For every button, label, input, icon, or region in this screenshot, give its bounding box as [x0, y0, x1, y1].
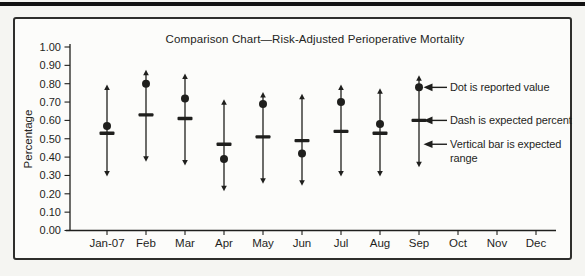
expected-dash-marker	[178, 117, 193, 120]
y-tick-label: 0.20	[40, 188, 61, 200]
month-label: Apr	[215, 237, 233, 249]
range-arrow-bottom	[143, 156, 149, 162]
expected-dash-marker	[334, 130, 349, 133]
expected-dash-marker	[373, 132, 388, 135]
month-label: Jun	[293, 237, 312, 249]
y-tick-label: 0.90	[40, 59, 61, 71]
range-arrow-bottom	[338, 171, 344, 177]
reported-dot-marker	[415, 83, 423, 91]
annotation-arrow-head	[424, 84, 433, 92]
month-label: Jul	[334, 237, 349, 249]
annotation-arrow-head	[424, 140, 433, 148]
range-arrow-bottom	[221, 186, 227, 192]
range-arrow-bottom	[260, 178, 266, 184]
expected-dash-marker	[217, 143, 232, 146]
month-label: Jan-07	[89, 237, 124, 249]
range-arrow-top	[143, 70, 149, 76]
month-label: Feb	[136, 237, 156, 249]
expected-dash-marker	[295, 139, 310, 142]
range-arrow-top	[299, 94, 305, 100]
reported-dot-marker	[181, 94, 189, 102]
expected-dash-marker	[256, 135, 271, 138]
month-label: Dec	[526, 237, 547, 249]
y-tick-label: 0.50	[40, 133, 61, 145]
reported-dot-marker	[337, 98, 345, 106]
annotation-text: Dot is reported value	[450, 81, 549, 93]
reported-dot-marker	[298, 149, 306, 157]
y-tick-label: 0.00	[40, 224, 61, 236]
range-arrow-top	[221, 99, 227, 105]
reported-dot-marker	[103, 122, 111, 130]
range-arrow-top	[182, 74, 188, 80]
month-label: Nov	[487, 237, 508, 249]
range-arrow-bottom	[416, 162, 422, 168]
expected-dash-marker	[100, 132, 115, 135]
month-label: Sep	[409, 237, 429, 249]
range-arrow-top	[104, 85, 110, 91]
range-arrow-bottom	[182, 160, 188, 166]
annotation-text: range	[450, 152, 478, 164]
annotation-text: Vertical bar is expected	[450, 138, 561, 150]
reported-dot-marker	[259, 100, 267, 108]
y-tick-label: 0.40	[40, 151, 61, 163]
reported-dot-marker	[376, 120, 384, 128]
range-arrow-bottom	[299, 180, 305, 186]
y-tick-label: 1.00	[40, 41, 61, 53]
range-arrow-top	[260, 92, 266, 98]
range-arrow-bottom	[104, 171, 110, 177]
range-arrow-top	[416, 75, 422, 81]
range-arrow-top	[338, 85, 344, 91]
month-label: Mar	[175, 237, 195, 249]
reported-dot-marker	[142, 80, 150, 88]
month-label: Aug	[370, 237, 390, 249]
month-label: May	[252, 237, 274, 249]
month-label: Oct	[449, 237, 468, 249]
y-tick-label: 0.10	[40, 206, 61, 218]
y-tick-label: 0.80	[40, 78, 61, 90]
annotation-text: Dash is expected percent	[450, 114, 572, 126]
range-arrow-bottom	[377, 171, 383, 177]
range-arrow-top	[377, 88, 383, 94]
y-tick-label: 0.70	[40, 96, 61, 108]
reported-dot-marker	[220, 155, 228, 163]
annotation-arrow-head	[424, 117, 433, 125]
expected-dash-marker	[139, 113, 154, 116]
y-tick-label: 0.60	[40, 114, 61, 126]
chart-canvas: 0.000.100.200.300.400.500.600.700.800.90…	[0, 0, 585, 276]
y-tick-label: 0.30	[40, 169, 61, 181]
